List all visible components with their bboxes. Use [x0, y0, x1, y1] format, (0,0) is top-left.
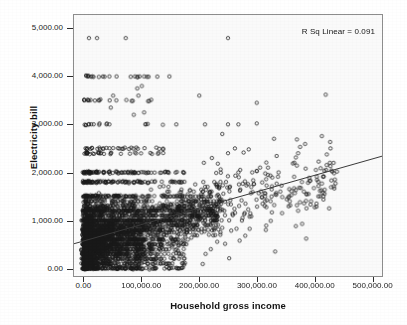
- y-axis-title: Electricity bill: [28, 58, 39, 218]
- x-tick-mark: [257, 277, 258, 282]
- x-tick-mark: [199, 277, 200, 282]
- x-tick-mark: [83, 277, 84, 282]
- r-squared-annotation: R Sq Linear = 0.091: [302, 27, 375, 36]
- y-tick-2: 2,000.00: [0, 169, 63, 177]
- y-tick-label: 5,000.00: [5, 24, 63, 32]
- x-tick-mark: [373, 277, 374, 282]
- y-tick-5: 5,000.00: [0, 24, 63, 32]
- x-tick-mark: [315, 277, 316, 282]
- regression-line-layer: [74, 15, 383, 277]
- y-tick-1: 1,000.00: [0, 217, 63, 225]
- y-tick-label: 4,000.00: [5, 72, 63, 80]
- scatter-plot-figure: Electricity bill 0.001,000.002,000.003,0…: [0, 0, 407, 325]
- x-tick-5: 500,000.00: [333, 282, 407, 290]
- y-tick-4: 4,000.00: [0, 72, 63, 80]
- y-tick-label: 0.00: [5, 265, 63, 273]
- x-axis-title: Household gross income: [73, 300, 383, 311]
- linear-regression-line: [74, 156, 383, 244]
- x-tick-label: 500,000.00: [333, 282, 407, 290]
- y-tick-label: 3,000.00: [5, 120, 63, 128]
- y-tick-0: 0.00: [0, 265, 63, 273]
- y-tick-label: 1,000.00: [5, 217, 63, 225]
- plot-area: R Sq Linear = 0.091: [73, 14, 383, 277]
- y-tick-label: 2,000.00: [5, 169, 63, 177]
- y-tick-3: 3,000.00: [0, 120, 63, 128]
- x-tick-mark: [141, 277, 142, 282]
